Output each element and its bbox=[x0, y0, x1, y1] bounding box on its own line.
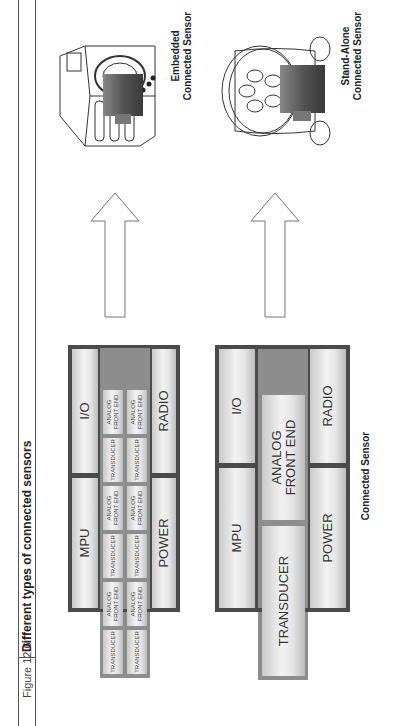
figure-title: Different types of connected sensors bbox=[19, 441, 35, 652]
bottom-io: I/O bbox=[219, 349, 255, 463]
arrow-right-icon bbox=[85, 181, 145, 321]
afe-label-2: FRONT END bbox=[113, 491, 120, 526]
bottom-transducer: TRANSDUCER bbox=[262, 526, 305, 676]
afe-label-1: ANALOG bbox=[106, 496, 113, 521]
top-afe-1c: ANALOGFRONT END bbox=[103, 390, 123, 434]
top-afe-2b: ANALOGFRONT END bbox=[127, 486, 147, 530]
arrow-right-icon bbox=[245, 181, 305, 321]
figure-frame: Figure 12.6 Different types of connected… bbox=[0, 0, 394, 726]
standalone-caption-line2: Connected Sensor bbox=[352, 0, 364, 116]
afe-label-1: ANALOG bbox=[106, 400, 113, 425]
afe-label-1: ANALOG bbox=[106, 592, 113, 617]
standalone-caption-line1: Stand-Alone bbox=[340, 0, 352, 116]
bottom-analog-front-end: ANALOGFRONT END bbox=[262, 395, 305, 520]
standalone-device-icon bbox=[215, 31, 335, 151]
top-io: I/O bbox=[72, 349, 98, 473]
figure-separator bbox=[19, 657, 35, 658]
top-transducer-1b: TRANSDUCER bbox=[103, 534, 123, 578]
afe-label-2: FRONT END bbox=[137, 395, 144, 430]
embedded-device-icon bbox=[55, 36, 170, 156]
afe-label-2: FRONT END bbox=[113, 587, 120, 622]
afe-label-1: ANALOG bbox=[130, 400, 137, 425]
afe-label-1: ANALOG bbox=[270, 430, 284, 484]
top-mpu: MPU bbox=[72, 478, 98, 608]
embedded-caption-line2: Connected Sensor bbox=[182, 0, 194, 116]
embedded-caption-line1: Embedded bbox=[170, 0, 182, 116]
top-transducer-1c: TRANSDUCER bbox=[103, 438, 123, 482]
bottom-power: POWER bbox=[310, 468, 346, 608]
afe-label-1: ANALOG bbox=[130, 592, 137, 617]
afe-label-2: FRONT END bbox=[284, 420, 298, 496]
connected-sensor-caption: Connected Sensor bbox=[360, 406, 372, 546]
top-afe-1b: ANALOGFRONT END bbox=[103, 486, 123, 530]
afe-label-1: ANALOG bbox=[130, 496, 137, 521]
top-radio: RADIO bbox=[152, 349, 176, 473]
top-transducer-1a: TRANSDUCER bbox=[103, 630, 123, 674]
header-rule-bottom bbox=[35, 0, 36, 726]
afe-label-2: FRONT END bbox=[113, 395, 120, 430]
standalone-caption: Stand-Alone Connected Sensor bbox=[340, 0, 364, 116]
top-transducer-2b: TRANSDUCER bbox=[127, 534, 147, 578]
top-afe-2c: ANALOGFRONT END bbox=[127, 390, 147, 434]
afe-label-2: FRONT END bbox=[137, 587, 144, 622]
bottom-radio: RADIO bbox=[310, 349, 346, 463]
top-afe-2a: ANALOGFRONT END bbox=[127, 582, 147, 626]
top-transducer-2a: TRANSDUCER bbox=[127, 630, 147, 674]
top-power: POWER bbox=[152, 478, 176, 608]
embedded-caption: Embedded Connected Sensor bbox=[170, 0, 194, 116]
bottom-mpu: MPU bbox=[219, 468, 255, 608]
top-afe-1a: ANALOGFRONT END bbox=[103, 582, 123, 626]
afe-label-2: FRONT END bbox=[137, 491, 144, 526]
top-transducer-2c: TRANSDUCER bbox=[127, 438, 147, 482]
